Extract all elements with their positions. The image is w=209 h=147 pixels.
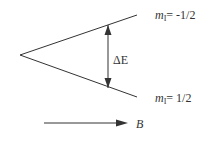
field-arrow <box>44 120 128 127</box>
lower-level-label: mI= 1/2 <box>155 91 191 106</box>
lower-level-value: = 1/2 <box>166 91 191 105</box>
upper-level-line <box>20 15 137 55</box>
arrowhead-up-icon <box>105 25 112 35</box>
upper-level-var: m <box>155 8 164 22</box>
energy-gap-arrow <box>105 25 112 88</box>
field-arrowhead-icon <box>116 120 128 127</box>
energy-gap-label: ΔE <box>113 53 128 67</box>
upper-level-value: = -1/2 <box>166 8 195 22</box>
arrowhead-down-icon <box>105 78 112 88</box>
field-label: B <box>136 117 144 131</box>
upper-level-label: mI= -1/2 <box>155 8 195 23</box>
zeeman-diagram: ΔE mI= -1/2 mI= 1/2 B <box>0 0 209 147</box>
lower-level-var: m <box>155 91 164 105</box>
